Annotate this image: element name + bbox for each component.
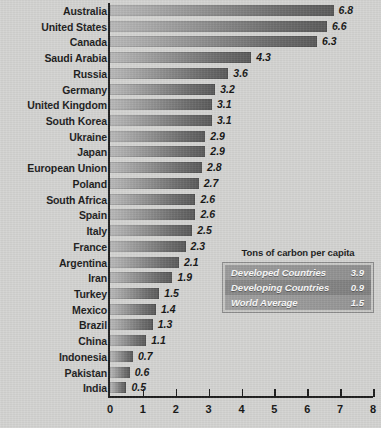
bar — [110, 84, 215, 95]
category-label: Iran — [0, 270, 107, 286]
x-axis-line — [108, 396, 373, 398]
category-label: United States — [0, 19, 107, 35]
bar-value-label: 2.5 — [197, 223, 212, 238]
bar-row: Indonesia0.7 — [0, 349, 381, 365]
bar — [110, 21, 327, 32]
bar — [110, 162, 202, 173]
bar — [110, 99, 212, 110]
bar — [110, 241, 186, 252]
x-axis-tick-label: 6 — [297, 402, 317, 416]
legend-row-value: 1.5 — [351, 295, 364, 310]
bar-value-label: 2.6 — [200, 207, 215, 222]
bar-row: India0.5 — [0, 380, 381, 396]
category-label: South Korea — [0, 113, 107, 129]
bar-row: Spain2.6 — [0, 207, 381, 223]
bar-fill — [110, 52, 251, 63]
bar-fill — [110, 351, 133, 362]
bar — [110, 382, 126, 393]
bar-fill — [110, 146, 205, 157]
bar-value-label: 1.5 — [164, 286, 179, 301]
legend: Tons of carbon per capita Developed Coun… — [222, 246, 374, 313]
bar-value-label: 6.6 — [332, 19, 347, 34]
category-label: Pakistan — [0, 365, 107, 381]
bar-fill — [110, 115, 212, 126]
bar-row: Japan2.9 — [0, 144, 381, 160]
bar — [110, 36, 317, 47]
bar-fill — [110, 5, 334, 16]
bar — [110, 304, 156, 315]
category-label: Spain — [0, 207, 107, 223]
category-label: Argentina — [0, 255, 107, 271]
bar-row: Pakistan0.6 — [0, 365, 381, 381]
bar — [110, 5, 334, 16]
bar-fill — [110, 382, 126, 393]
bar-fill — [110, 272, 172, 283]
bar-fill — [110, 36, 317, 47]
bar-value-label: 0.6 — [135, 365, 150, 380]
bar-value-label: 2.9 — [210, 144, 225, 159]
bar-value-label: 3.1 — [217, 97, 232, 112]
category-label: Brazil — [0, 317, 107, 333]
bar-row: Poland2.7 — [0, 176, 381, 192]
bar-fill — [110, 84, 215, 95]
bar — [110, 288, 159, 299]
bar-row: Brazil1.3 — [0, 317, 381, 333]
category-label: Mexico — [0, 302, 107, 318]
bar — [110, 272, 172, 283]
bar-row: Australia6.8 — [0, 3, 381, 19]
bar-value-label: 4.3 — [256, 50, 271, 65]
x-axis-tick-label: 5 — [264, 402, 284, 416]
x-axis-tick-label: 8 — [363, 402, 381, 416]
bar — [110, 319, 153, 330]
legend-row: World Average1.5 — [225, 295, 371, 310]
bar-row: Italy2.5 — [0, 223, 381, 239]
bar-value-label: 6.8 — [339, 3, 354, 18]
legend-row-label: Developed Countries — [231, 265, 326, 280]
legend-row-value: 0.9 — [351, 280, 364, 295]
bar-value-label: 2.8 — [207, 160, 222, 175]
bar-fill — [110, 304, 156, 315]
bar — [110, 335, 146, 346]
legend-row: Developing Countries0.9 — [225, 280, 371, 295]
x-axis-tick-label: 2 — [166, 402, 186, 416]
bar-fill — [110, 209, 195, 220]
category-label: Australia — [0, 3, 107, 19]
category-label: South Africa — [0, 192, 107, 208]
legend-row-value: 3.9 — [351, 265, 364, 280]
bar-row: South Korea3.1 — [0, 113, 381, 129]
x-axis-tick-label: 7 — [330, 402, 350, 416]
category-label: United Kingdom — [0, 97, 107, 113]
bar — [110, 131, 205, 142]
bar-row: United States6.6 — [0, 19, 381, 35]
bar-fill — [110, 68, 228, 79]
bar-fill — [110, 178, 199, 189]
bar-value-label: 2.6 — [200, 192, 215, 207]
bar — [110, 115, 212, 126]
category-label: European Union — [0, 160, 107, 176]
bar — [110, 68, 228, 79]
bar-row: Saudi Arabia4.3 — [0, 50, 381, 66]
bar-row: Canada6.3 — [0, 34, 381, 50]
bar-value-label: 6.3 — [322, 34, 337, 49]
bar-value-label: 2.7 — [204, 176, 219, 191]
bar-row: Russia3.6 — [0, 66, 381, 82]
bar — [110, 194, 195, 205]
bar-fill — [110, 131, 205, 142]
category-label: Indonesia — [0, 349, 107, 365]
bar-chart: Australia6.8United States6.6Canada6.3Sau… — [0, 0, 381, 428]
category-label: Saudi Arabia — [0, 50, 107, 66]
bar-value-label: 2.9 — [210, 129, 225, 144]
bar-row: Germany3.2 — [0, 82, 381, 98]
bar — [110, 367, 130, 378]
x-axis-tick-label: 1 — [133, 402, 153, 416]
x-axis-tick — [373, 389, 375, 397]
legend-box: Developed Countries3.9Developing Countri… — [222, 262, 374, 313]
x-axis-tick-label: 4 — [232, 402, 252, 416]
bar-value-label: 1.3 — [158, 317, 173, 332]
bar-fill — [110, 257, 179, 268]
x-axis-tick-label: 0 — [100, 402, 120, 416]
bar — [110, 225, 192, 236]
bar-fill — [110, 225, 192, 236]
bar-row: China1.1 — [0, 333, 381, 349]
bar — [110, 351, 133, 362]
